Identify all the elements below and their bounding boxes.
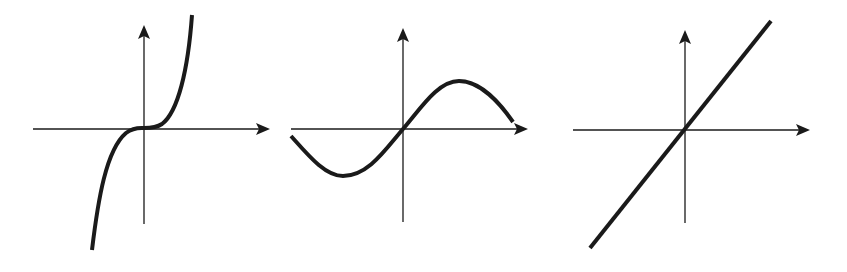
- linear-line: [590, 21, 771, 248]
- panel-cubic: [33, 15, 270, 250]
- panel-linear: [573, 21, 810, 248]
- panel-sine: [291, 28, 528, 222]
- function-graphs-figure: [0, 0, 847, 272]
- cubic-curve: [92, 15, 192, 250]
